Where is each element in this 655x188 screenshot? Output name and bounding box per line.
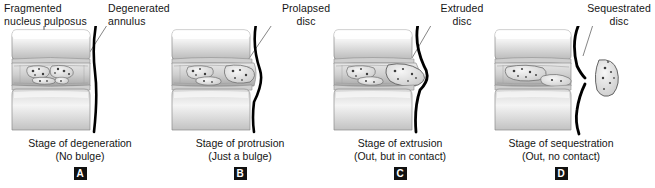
panel-b: Prolapsed disc: [160, 0, 320, 188]
panel-d-illustration: [481, 26, 641, 134]
sequestrated-fragment-d: [595, 60, 618, 97]
panel-b-caption: Stage of protrusion (Just a bulge): [160, 137, 320, 162]
caption-sub: (Just a bulge): [160, 150, 320, 163]
panel-letter-badge: C: [394, 167, 407, 180]
panel-a-letter-wrap: A: [0, 164, 160, 182]
caption-sub: (Out, no contact): [481, 150, 641, 163]
panel-c-letter-wrap: C: [320, 164, 480, 182]
callout-sequestrated-disc: Sequestrated disc: [559, 2, 655, 27]
callout-line-2: disc: [452, 15, 471, 27]
extruded-mass-c: [386, 64, 425, 86]
caption-main: Stage of sequestration: [508, 137, 613, 149]
callout-line-2: nucleus pulposus: [4, 15, 87, 27]
posterior-ligament-d-lower: [576, 84, 585, 134]
leader-line-annulus: [86, 26, 118, 58]
caption-sub: (No bulge): [0, 150, 160, 163]
panel-b-illustration: [160, 26, 320, 134]
caption-main: Stage of protrusion: [196, 137, 285, 149]
leader-line-prolapse: [248, 26, 282, 60]
callout-fragmented-nucleus-pulposus: Fragmented nucleus pulposus: [0, 2, 114, 27]
callout-line-1: Fragmented: [4, 2, 62, 14]
caption-main: Stage of degeneration: [28, 137, 131, 149]
callout-line-2: disc: [609, 15, 628, 27]
panel-letter-badge: A: [74, 167, 87, 180]
leader-line-sequestration: [583, 26, 597, 56]
panel-c: Extruded disc: [320, 0, 480, 188]
panel-d: Sequestrated disc: [481, 0, 642, 188]
caption-sub: (Out, but in contact): [320, 150, 480, 163]
panel-b-letter-wrap: B: [160, 164, 320, 182]
panel-a-illustration: [0, 26, 160, 134]
panel-d-letter-wrap: D: [481, 164, 641, 182]
callout-line-2: annulus: [108, 15, 145, 27]
callout-line-1: Sequestrated: [587, 2, 651, 14]
panel-c-illustration: [320, 26, 480, 134]
prolapsed-mass-b: [224, 65, 254, 83]
callout-line-2: disc: [296, 15, 315, 27]
caption-main: Stage of extrusion: [358, 137, 443, 149]
panel-c-caption: Stage of extrusion (Out, but in contact): [320, 137, 480, 162]
panel-a: Fragmented nucleus pulposus Degenerated …: [0, 0, 160, 188]
posterior-ligament-d-upper: [574, 26, 585, 78]
callout-line-1: Extruded: [441, 2, 484, 14]
panel-d-caption: Stage of sequestration (Out, no contact): [481, 137, 641, 162]
panel-letter-badge: D: [555, 167, 568, 180]
panel-a-caption: Stage of degeneration (No bulge): [0, 137, 160, 162]
panel-letter-badge: B: [234, 167, 247, 180]
